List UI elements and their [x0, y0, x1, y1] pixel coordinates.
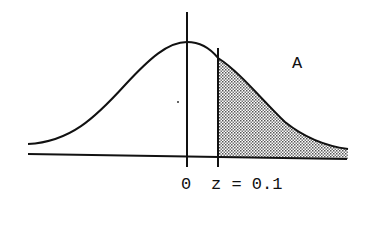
stray-dot: [177, 101, 179, 103]
mean-label: 0: [181, 175, 191, 194]
region-label-a: A: [292, 54, 302, 73]
z-value-label: z = 0.1: [211, 175, 282, 194]
